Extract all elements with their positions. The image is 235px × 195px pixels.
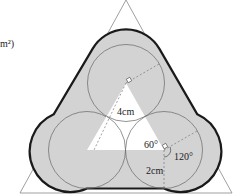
unit-fragment-label: m²) bbox=[0, 38, 14, 50]
radius-label: 2cm bbox=[146, 165, 163, 176]
geometry-diagram: m²) 4cm 60° 120° 2cm bbox=[0, 0, 235, 195]
side-length-label: 4cm bbox=[117, 106, 134, 117]
angle-120-label: 120° bbox=[174, 151, 193, 162]
angle-60-label: 60° bbox=[144, 139, 158, 150]
